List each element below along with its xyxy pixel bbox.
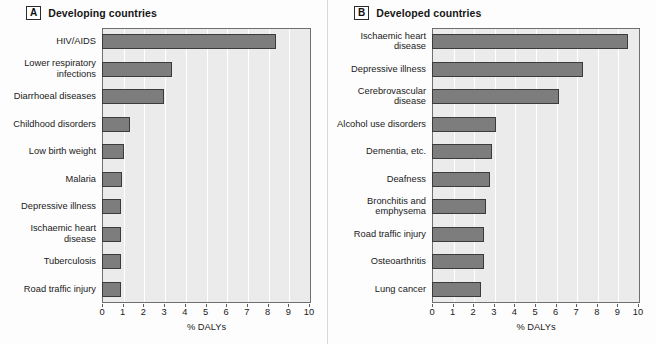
figure-root: A Developing countries HIV/AIDSLower res… [0, 0, 656, 344]
tick-label: 6 [553, 307, 558, 318]
category-label: Ischaemic heartdisease [328, 31, 426, 52]
panel-a-bars [102, 28, 311, 303]
bar [432, 62, 583, 77]
tick-label: 3 [162, 307, 167, 318]
category-label: Lower respiratoryinfections [0, 58, 96, 79]
tick-label: 10 [304, 307, 314, 318]
panel-b-plot: Ischaemic heartdiseaseDepressive illness… [328, 0, 656, 344]
tick-label: 4 [512, 307, 517, 318]
tick-label: 0 [429, 307, 434, 318]
bar [102, 144, 124, 159]
tick-label: 2 [141, 307, 146, 318]
category-label: Depressive illness [328, 64, 426, 75]
panel-b-axis-title: % DALYs [432, 322, 640, 332]
panel-b-x-axis: 012345678910 [432, 304, 640, 318]
category-label: Road traffic injury [328, 229, 426, 240]
bar [102, 34, 276, 49]
tick-label: 9 [286, 307, 291, 318]
tick-label: 0 [99, 307, 104, 318]
panel-a-plot: HIV/AIDSLower respiratoryinfectionsDiarr… [0, 0, 328, 344]
category-label: Bronchitis andemphysema [328, 196, 426, 217]
tick-label: 4 [182, 307, 187, 318]
bar [432, 172, 490, 187]
category-label: Cerebrovasculardisease [328, 86, 426, 107]
tick-label: 8 [265, 307, 270, 318]
tick-label: 5 [203, 307, 208, 318]
bar [102, 254, 121, 269]
category-label: Childhood disorders [0, 119, 96, 130]
bar [102, 62, 172, 77]
tick-label: 7 [574, 307, 579, 318]
tick-label: 2 [471, 307, 476, 318]
category-label: Depressive illness [0, 201, 96, 212]
chart-panel-a: A Developing countries HIV/AIDSLower res… [0, 0, 328, 344]
category-label: Alcohol use disorders [328, 119, 426, 130]
bar [432, 254, 484, 269]
tick-label: 1 [450, 307, 455, 318]
panel-a-x-axis: 012345678910 [102, 304, 311, 318]
bar [102, 172, 122, 187]
tick-label: 6 [224, 307, 229, 318]
tick-label: 7 [244, 307, 249, 318]
tick-label: 9 [615, 307, 620, 318]
bar [432, 227, 484, 242]
tick-label: 1 [120, 307, 125, 318]
category-label: Low birth weight [0, 146, 96, 157]
category-label: Ischaemic heartdisease [0, 223, 96, 244]
category-label: Lung cancer [328, 284, 426, 295]
panel-a-category-labels: HIV/AIDSLower respiratoryinfectionsDiarr… [0, 28, 96, 303]
bar [102, 227, 121, 242]
chart-panel-b: B Developed countries Ischaemic heartdis… [328, 0, 656, 344]
category-label: Dementia, etc. [328, 146, 426, 157]
category-label: HIV/AIDS [0, 36, 96, 47]
bar [102, 199, 121, 214]
bar [432, 89, 559, 104]
panel-b-category-labels: Ischaemic heartdiseaseDepressive illness… [328, 28, 426, 303]
tick-label: 3 [491, 307, 496, 318]
bar [432, 144, 492, 159]
panel-a-axis-title: % DALYs [102, 322, 311, 332]
category-label: Malaria [0, 174, 96, 185]
tick-label: 5 [532, 307, 537, 318]
category-label: Diarrhoeal diseases [0, 91, 96, 102]
tick-label: 10 [633, 307, 643, 318]
category-label: Tuberculosis [0, 256, 96, 267]
tick-label: 8 [594, 307, 599, 318]
category-label: Osteoarthritis [328, 256, 426, 267]
panel-b-bars [432, 28, 640, 303]
category-label: Deafness [328, 174, 426, 185]
category-label: Road traffic injury [0, 284, 96, 295]
bar [432, 282, 481, 297]
bar [432, 34, 628, 49]
bar [102, 282, 121, 297]
bar [432, 199, 486, 214]
bar [102, 117, 130, 132]
bar [102, 89, 164, 104]
bar [432, 117, 496, 132]
